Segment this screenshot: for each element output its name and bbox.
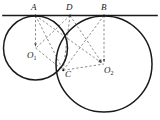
label-O1-base: O [27,50,34,60]
point-A [35,15,37,17]
label-D: D [66,3,73,12]
segment-D-O1 [37,16,70,48]
label-O2-sub: 2 [111,70,114,76]
diagram-canvas [0,0,160,120]
point-markers-group [35,15,105,72]
label-O2: O2 [104,66,114,75]
label-O2-base: O [104,65,111,75]
point-B [103,15,105,17]
point-D [69,15,71,17]
segment-B-C [63,16,104,71]
segment-A-C [36,16,64,71]
construction-lines-group [36,16,105,71]
geometry-diagram: A D B C O1 O2 [0,0,160,120]
segment-D-O2 [70,16,102,63]
label-B: B [101,3,107,12]
label-O1-sub: 1 [34,55,37,61]
point-C [62,69,64,71]
label-A: A [31,3,37,12]
segment-O1-C [36,48,64,70]
label-C: C [65,70,71,79]
segment-A-O2 [36,16,102,63]
label-O1: O1 [27,51,37,60]
